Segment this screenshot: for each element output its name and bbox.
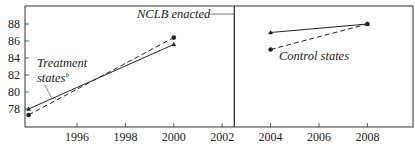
y-tick-label: 86 bbox=[8, 34, 20, 48]
y-axis: 788082848688 bbox=[8, 17, 29, 116]
circle-marker bbox=[26, 113, 31, 118]
x-axis: 1996199820002002200420062008 bbox=[65, 123, 379, 144]
treatment-leader-line bbox=[45, 85, 52, 99]
x-tick-label: 2006 bbox=[307, 130, 331, 144]
nclb-label: NCLB enacted bbox=[136, 7, 211, 21]
x-tick-label: 1998 bbox=[113, 130, 137, 144]
treatment-label-line2: statesb bbox=[37, 71, 69, 85]
circle-marker bbox=[172, 35, 177, 40]
x-tick-label: 2002 bbox=[210, 130, 234, 144]
x-tick-label: 2004 bbox=[259, 130, 283, 144]
treatment-label-line1: Treatment bbox=[37, 56, 88, 70]
control-label: Control states bbox=[279, 49, 349, 63]
x-tick-label: 2008 bbox=[355, 130, 379, 144]
y-tick-label: 88 bbox=[8, 17, 20, 31]
y-tick-label: 80 bbox=[8, 85, 20, 99]
circle-marker bbox=[365, 22, 370, 27]
treatment-label-states: states bbox=[37, 71, 66, 85]
x-tick-label: 1996 bbox=[65, 130, 89, 144]
y-tick-label: 82 bbox=[8, 68, 20, 82]
chart: 788082848688 199619982000200220042006200… bbox=[0, 0, 415, 147]
y-tick-label: 78 bbox=[8, 102, 20, 116]
y-tick-label: 84 bbox=[8, 51, 20, 65]
triangle-marker bbox=[171, 42, 176, 46]
treatment-label-sup: b bbox=[65, 71, 69, 79]
circle-marker bbox=[268, 47, 273, 52]
x-tick-label: 2000 bbox=[162, 130, 186, 144]
